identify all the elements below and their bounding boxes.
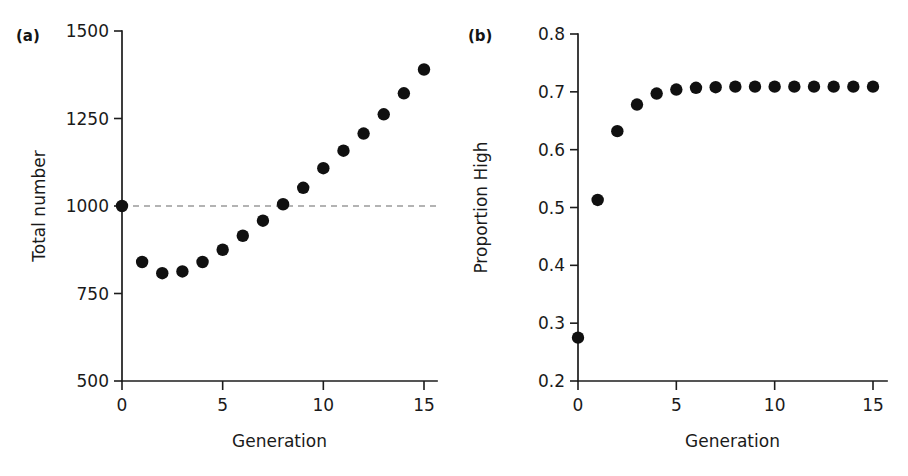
- data-point: [650, 87, 662, 99]
- data-point: [670, 83, 682, 95]
- panel-a-plot: 500750100012501500051015GenerationTotal …: [0, 0, 454, 476]
- y-tick-label: 0.3: [538, 313, 565, 333]
- data-point: [398, 87, 410, 99]
- data-point: [237, 230, 249, 242]
- y-tick-label: 0.8: [538, 24, 565, 44]
- data-point: [827, 80, 839, 92]
- data-point: [418, 63, 430, 75]
- data-point: [729, 80, 741, 92]
- data-point: [216, 244, 228, 256]
- x-tick-label: 15: [413, 395, 435, 415]
- data-point: [690, 82, 702, 94]
- data-point: [257, 215, 269, 227]
- x-tick-label: 0: [117, 395, 128, 415]
- x-tick-label: 10: [764, 395, 786, 415]
- data-point: [611, 125, 623, 137]
- x-tick-label: 0: [573, 395, 584, 415]
- data-point: [317, 162, 329, 174]
- x-tick-label: 5: [671, 395, 682, 415]
- y-axis-title: Total number: [29, 150, 49, 262]
- y-tick-label: 0.4: [538, 255, 565, 275]
- x-tick-label: 15: [862, 395, 884, 415]
- data-point: [867, 80, 879, 92]
- data-point: [768, 80, 780, 92]
- y-tick-label: 0.6: [538, 140, 565, 160]
- panel-b-plot: 0.20.30.40.50.60.70.8051015GenerationPro…: [454, 0, 908, 476]
- y-tick-label: 1250: [66, 109, 109, 129]
- panel-a: (a) 500750100012501500051015GenerationTo…: [0, 0, 454, 476]
- data-point: [116, 200, 128, 212]
- data-point: [808, 80, 820, 92]
- data-point: [788, 80, 800, 92]
- x-axis-title: Generation: [685, 431, 780, 451]
- data-point: [378, 108, 390, 120]
- data-point: [277, 198, 289, 210]
- y-tick-label: 1000: [66, 196, 109, 216]
- x-axis-title: Generation: [232, 431, 327, 451]
- data-point: [196, 256, 208, 268]
- data-point: [631, 98, 643, 110]
- y-tick-label: 0.7: [538, 82, 565, 102]
- data-point: [572, 331, 584, 343]
- panel-b: (b) 0.20.30.40.50.60.70.8051015Generatio…: [454, 0, 908, 476]
- y-tick-label: 750: [77, 284, 109, 304]
- data-point: [357, 127, 369, 139]
- y-axis-title: Proportion High: [471, 141, 491, 273]
- data-point: [136, 256, 148, 268]
- x-tick-label: 10: [313, 395, 335, 415]
- y-tick-label: 500: [77, 371, 109, 391]
- data-point: [591, 194, 603, 206]
- data-point: [337, 145, 349, 157]
- figure-two-panel-scatter: (a) 500750100012501500051015GenerationTo…: [0, 0, 908, 476]
- y-tick-label: 0.5: [538, 198, 565, 218]
- data-point: [709, 81, 721, 93]
- data-point: [156, 267, 168, 279]
- data-point: [749, 80, 761, 92]
- y-tick-label: 1500: [66, 21, 109, 41]
- data-point: [847, 80, 859, 92]
- data-point: [176, 265, 188, 277]
- x-tick-label: 5: [217, 395, 228, 415]
- y-tick-label: 0.2: [538, 371, 565, 391]
- data-point: [297, 182, 309, 194]
